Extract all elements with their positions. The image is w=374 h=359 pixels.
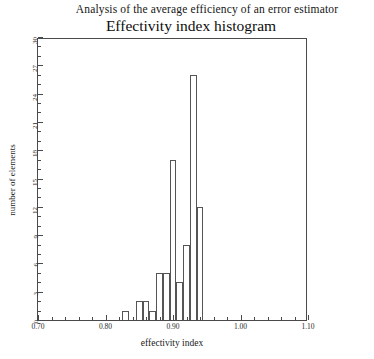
chart-title: Effectivity index histogram	[0, 17, 374, 35]
y-tick-label: 24	[31, 94, 39, 101]
y-tick-mark	[38, 216, 41, 217]
y-tick-mark	[38, 282, 41, 283]
y-tick-mark	[38, 197, 41, 198]
y-tick-label: 30	[31, 37, 39, 44]
histogram-bars	[38, 39, 306, 320]
x-tick-mark	[146, 317, 147, 320]
x-tick-mark	[281, 317, 282, 320]
x-tick-mark	[200, 317, 201, 320]
x-tick-mark	[38, 315, 39, 320]
x-tick-mark	[227, 317, 228, 320]
histogram-bar	[176, 282, 183, 320]
y-tick-mark	[38, 311, 41, 312]
y-tick-label: 3	[31, 292, 39, 296]
x-tick-mark	[214, 317, 215, 320]
y-tick-mark	[38, 254, 41, 255]
y-tick-label: 21	[31, 122, 39, 129]
histogram-bar	[122, 311, 129, 320]
x-tick-mark	[160, 317, 161, 320]
figure-suptitle: Analysis of the average efficiency of an…	[0, 3, 374, 15]
y-tick-mark	[38, 273, 41, 274]
y-tick-label: 18	[31, 150, 39, 157]
y-axis-label: number of elements	[6, 38, 18, 321]
histogram-bar	[190, 75, 197, 320]
x-tick-mark	[133, 317, 134, 320]
histogram-figure: Analysis of the average efficiency of an…	[0, 0, 374, 359]
x-tick-mark	[52, 317, 53, 320]
y-tick-mark	[38, 84, 41, 85]
x-tick-mark	[254, 317, 255, 320]
histogram-bar	[156, 273, 163, 320]
y-tick-mark	[38, 188, 41, 189]
y-axis-label-text: number of elements	[7, 144, 17, 215]
y-tick-label: 27	[31, 65, 39, 72]
y-tick-mark	[38, 75, 41, 76]
x-tick-mark	[268, 317, 269, 320]
histogram-bar	[136, 301, 143, 320]
y-tick-label: 9	[31, 235, 39, 239]
y-tick-mark	[38, 131, 41, 132]
y-tick-mark	[38, 245, 41, 246]
histogram-bar	[163, 273, 170, 320]
histogram-bar	[149, 311, 156, 320]
y-tick-mark	[38, 160, 41, 161]
x-tick-mark	[173, 315, 174, 320]
y-tick-mark	[38, 169, 41, 170]
y-tick-mark	[38, 301, 41, 302]
histogram-bar	[170, 160, 177, 320]
x-tick-label: 1.10	[301, 322, 314, 331]
y-tick-mark	[38, 141, 41, 142]
y-tick-label: 12	[31, 207, 39, 214]
y-tick-mark	[38, 112, 41, 113]
x-tick-mark	[79, 317, 80, 320]
x-tick-mark	[308, 315, 309, 320]
x-tick-label: 1.00	[234, 322, 247, 331]
y-tick-mark	[38, 46, 41, 47]
x-tick-mark	[65, 317, 66, 320]
x-tick-mark	[187, 317, 188, 320]
x-tick-label: 0.80	[99, 322, 112, 331]
x-tick-label: 0.70	[31, 322, 44, 331]
x-tick-mark	[92, 317, 93, 320]
plot-area: 036912151821242730 0.700.800.901.001.10	[37, 38, 307, 321]
y-tick-mark	[38, 103, 41, 104]
y-tick-mark	[38, 56, 41, 57]
x-tick-mark	[106, 315, 107, 320]
histogram-bar	[197, 207, 204, 320]
x-tick-mark	[241, 315, 242, 320]
x-tick-mark	[119, 317, 120, 320]
x-axis-label: effectivity index	[37, 338, 307, 348]
histogram-bar	[183, 245, 190, 320]
y-tick-label: 6	[31, 263, 39, 267]
x-tick-label: 0.90	[166, 322, 179, 331]
y-tick-label: 15	[31, 179, 39, 186]
y-tick-mark	[38, 226, 41, 227]
x-tick-mark	[295, 317, 296, 320]
